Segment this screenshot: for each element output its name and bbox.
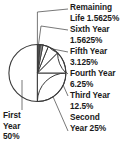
- pie-label-first-year: First Year 50%: [3, 110, 21, 142]
- leader-line-sixth: [38, 26, 68, 46]
- pie-label-third-year: Third Year 12.5%: [70, 90, 110, 111]
- pie-label-sixth-year-line2: 1.5625%: [70, 35, 109, 46]
- pie-label-fourth-year: Fourth Year 6.25%: [70, 68, 115, 89]
- pie-label-first-year-line3: 50%: [3, 131, 21, 142]
- pie-label-third-year-line2: 12.5%: [70, 101, 110, 112]
- pie-label-first-year-line2: Year: [3, 121, 21, 132]
- pie-label-second-year-line1: Second: [70, 112, 106, 123]
- pie-label-remaining-life: Remaining Life 1.5625%: [70, 2, 119, 23]
- pie-label-second-year-line2: Year 25%: [70, 123, 106, 134]
- pie-label-remaining-life-line1: Remaining: [70, 2, 119, 13]
- pie-label-third-year-line1: Third Year: [70, 90, 110, 101]
- pie-label-first-year-line1: First: [3, 110, 21, 121]
- pie-label-fifth-year-line1: Fifth Year: [70, 46, 107, 57]
- pie-label-fourth-year-line2: 6.25%: [70, 79, 115, 90]
- pie-slices: [9, 45, 66, 102]
- pie-label-sixth-year-line1: Sixth Year: [70, 24, 109, 35]
- pie-chart-figure: Remaining Life 1.5625% Sixth Year 1.5625…: [0, 0, 130, 157]
- pie-label-sixth-year: Sixth Year 1.5625%: [70, 24, 109, 45]
- pie-label-remaining-life-line2: Life 1.5625%: [70, 13, 119, 24]
- pie-label-second-year: Second Year 25%: [70, 112, 106, 133]
- pie-label-fifth-year: Fifth Year 3.125%: [70, 46, 107, 67]
- pie-label-fifth-year-line2: 3.125%: [70, 57, 107, 68]
- pie-label-fourth-year-line1: Fourth Year: [70, 68, 115, 79]
- leader-line-remaining: [37, 9, 68, 46]
